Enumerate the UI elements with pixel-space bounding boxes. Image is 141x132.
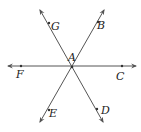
- diagram-canvas: A B C D E F G: [0, 0, 141, 132]
- label-d: D: [100, 104, 110, 117]
- label-b: B: [96, 19, 105, 32]
- point-g: [48, 22, 50, 24]
- intersecting-lines-diagram: A B C D E F G: [0, 0, 141, 132]
- point-f: [20, 65, 22, 67]
- label-g: G: [51, 20, 60, 33]
- label-e: E: [48, 107, 57, 120]
- point-c: [121, 65, 123, 67]
- point-a: [71, 66, 74, 69]
- label-f: F: [15, 68, 24, 81]
- label-a: A: [67, 51, 76, 64]
- point-d: [96, 108, 98, 110]
- label-c: C: [116, 70, 125, 83]
